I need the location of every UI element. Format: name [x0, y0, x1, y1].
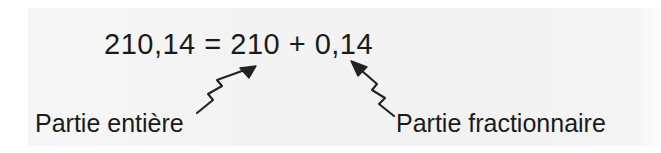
- panel-right-fade: [635, 8, 661, 148]
- figure-container: 210,14 = 210 + 0,14 Partie entière Parti…: [0, 0, 661, 153]
- label-integer-part: Partie entière: [35, 108, 184, 139]
- label-fractional-part: Partie fractionnaire: [396, 108, 606, 139]
- equation-text: 210,14 = 210 + 0,14: [104, 26, 373, 62]
- panel-bottom-fade: [28, 146, 661, 153]
